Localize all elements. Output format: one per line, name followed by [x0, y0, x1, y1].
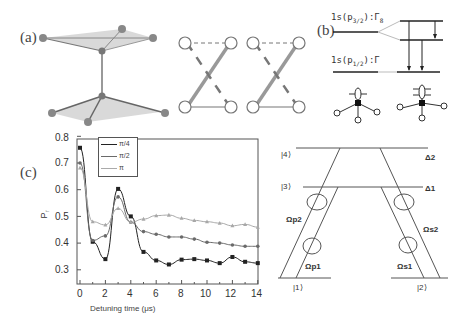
- legend-item: π/2: [101, 152, 130, 159]
- x-tick: 10: [200, 288, 211, 299]
- panel-b-energy-diagram: [0, 0, 468, 329]
- omega-p2-label: Ωp2: [286, 215, 302, 224]
- upper-level-label: 1s(p3/2):Γ8: [331, 12, 383, 24]
- y-tick: 0.6: [55, 184, 69, 195]
- y-tick: 0.4: [55, 237, 69, 248]
- x-tick: 2: [102, 288, 108, 299]
- panel-a-structure: [0, 0, 468, 329]
- level-1-label: |1⟩: [293, 283, 303, 292]
- x-tick: 8: [178, 288, 184, 299]
- chart-plot: [0, 0, 468, 329]
- level-3-label: |3⟩: [281, 182, 291, 191]
- x-axis-label: Detuning time (μs): [90, 304, 156, 313]
- level-4-label: |4⟩: [281, 150, 291, 159]
- x-tick: 4: [127, 288, 133, 299]
- panel-c-label: (c): [20, 164, 37, 181]
- legend-item: π/4: [101, 140, 130, 147]
- omega-s1-label: Ωs1: [397, 262, 412, 271]
- y-tick: 0.7: [55, 157, 69, 168]
- legend-item: π: [101, 164, 124, 171]
- level-scheme-diagram: [0, 0, 468, 329]
- y-tick: 0.5: [55, 211, 69, 222]
- level-2-label: |2⟩: [417, 283, 427, 292]
- delta-2-label: Δ2: [425, 153, 435, 162]
- y-tick: 0.3: [55, 264, 69, 275]
- omega-s2-label: Ωs2: [423, 225, 438, 234]
- x-tick: 12: [225, 288, 236, 299]
- omega-p1-label: Ωp1: [305, 262, 321, 271]
- y-tick: 0.8: [55, 132, 69, 143]
- panel-a-label: (a): [20, 29, 37, 46]
- x-tick: 14: [251, 288, 262, 299]
- y-axis-label: P↑: [39, 209, 51, 218]
- x-tick: 0: [77, 288, 83, 299]
- chart-legend: π/4 π/2 π: [98, 137, 138, 177]
- delta-1-label: Δ1: [425, 184, 435, 193]
- lower-level-label: 1s(p1/2):Γ: [331, 55, 380, 67]
- panel-b-label: (b): [317, 22, 335, 39]
- x-tick: 6: [153, 288, 159, 299]
